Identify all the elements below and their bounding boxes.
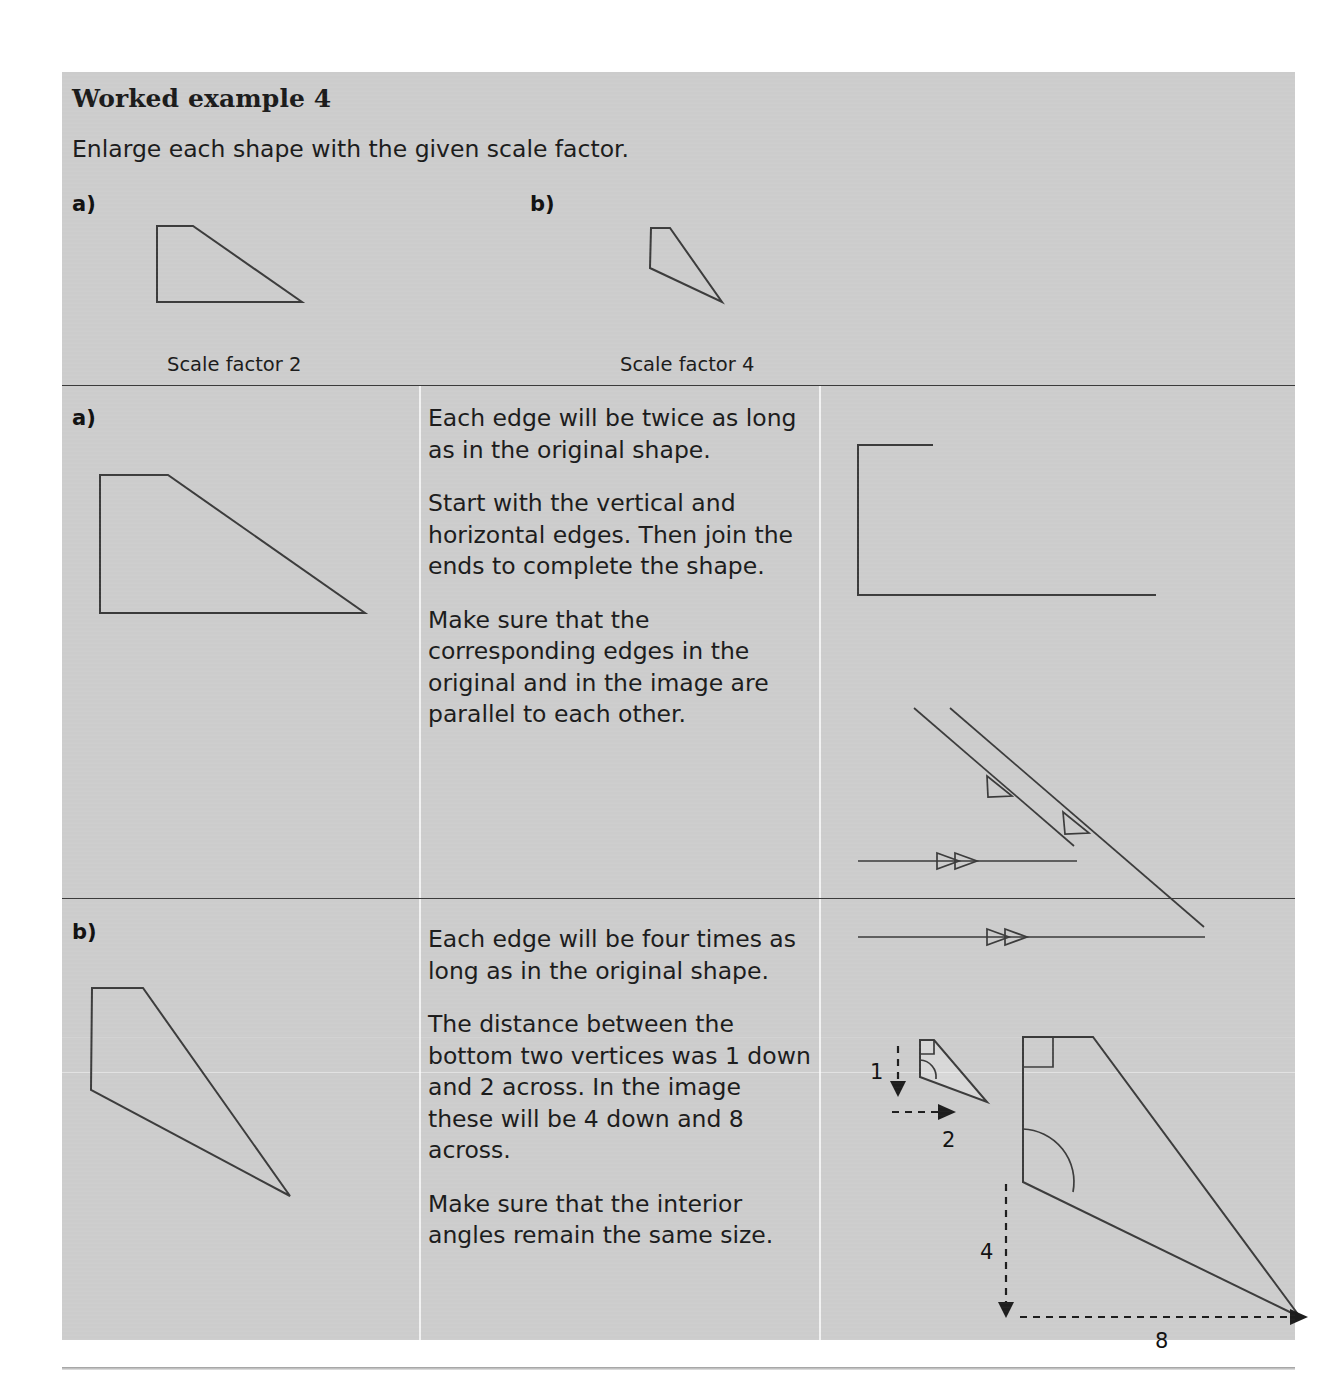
solution-a-paragraph-3: Make sure that the corresponding edges i… — [428, 605, 813, 731]
figure-solution-a-parallel-markers — [819, 692, 1295, 898]
figure-solution-a-construction-lines — [819, 386, 1295, 706]
dimension-label-8: 8 — [1155, 1329, 1168, 1353]
dimension-arrow-across-2: 2 — [892, 1104, 956, 1152]
dimension-arrow-down-1: 1 — [870, 1046, 906, 1097]
dimension-arrow-across-8: 8 — [1020, 1309, 1308, 1353]
dimension-arrow-down-4: 4 — [980, 1184, 1014, 1318]
solution-b-paragraph-3: Make sure that the interior angles remai… — [428, 1189, 813, 1252]
dimension-label-2: 2 — [942, 1128, 955, 1152]
caption-scale-factor-b: Scale factor 4 — [620, 353, 754, 376]
solution-b-paragraph-1: Each edge will be four times as long as … — [428, 924, 813, 987]
dimension-label-4: 4 — [980, 1240, 993, 1264]
large-image-shape — [1023, 1037, 1300, 1317]
question-label-b: b) — [530, 192, 555, 216]
figure-solution-a-enlarged-shape — [62, 386, 462, 726]
figure-solution-b-enlarged-shape — [62, 899, 462, 1319]
solution-b-paragraph-2: The distance between the bottom two vert… — [428, 1009, 813, 1167]
figure-question-a-shape — [62, 72, 482, 332]
worked-example-panel: Worked example 4 Enlarge each shape with… — [62, 72, 1295, 1340]
page-footer-rule — [62, 1367, 1295, 1370]
worked-example-page: Worked example 4 Enlarge each shape with… — [0, 0, 1343, 1377]
solution-a-paragraph-1: Each edge will be twice as long as in th… — [428, 403, 813, 466]
solution-a-text: Each edge will be twice as long as in th… — [428, 403, 813, 753]
caption-scale-factor-a: Scale factor 2 — [167, 353, 301, 376]
figure-question-b-shape — [622, 72, 882, 332]
dimension-label-1: 1 — [870, 1060, 883, 1084]
solution-a-paragraph-2: Start with the vertical and horizontal e… — [428, 488, 813, 583]
small-original-shape — [920, 1040, 987, 1102]
figure-solution-b-scaled-shapes: 1 2 4 — [802, 899, 1295, 1340]
solution-b-text: Each edge will be four times as long as … — [428, 924, 813, 1274]
